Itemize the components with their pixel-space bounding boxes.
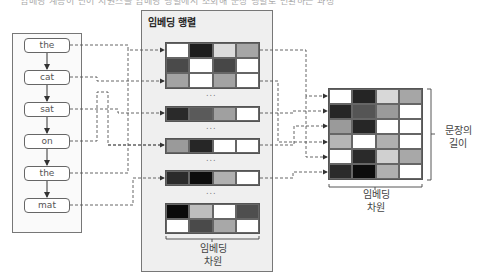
connector-lines bbox=[0, 0, 480, 278]
